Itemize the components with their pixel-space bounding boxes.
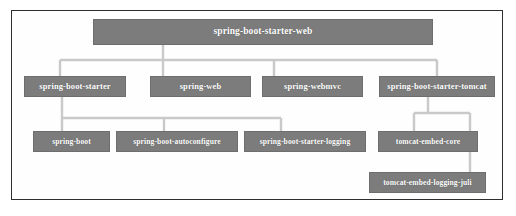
node-spring-boot-starter-tomcat: spring-boot-starter-tomcat <box>379 76 495 97</box>
node-spring-webmvc: spring-webmvc <box>262 76 363 97</box>
node-spring-boot-autoconfigure: spring-boot-autoconfigure <box>116 131 238 152</box>
node-spring-boot-starter: spring-boot-starter <box>24 76 126 97</box>
diagram-canvas: spring-boot-starter-web spring-boot-star… <box>0 0 516 216</box>
node-spring-boot: spring-boot <box>33 131 110 152</box>
node-tomcat-embed-logging-juli: tomcat-embed-logging-juli <box>369 172 486 193</box>
node-spring-web: spring-web <box>150 76 251 97</box>
node-tomcat-embed-core: tomcat-embed-core <box>378 131 478 152</box>
node-spring-boot-starter-web: spring-boot-starter-web <box>93 19 433 45</box>
node-spring-boot-starter-logging: spring-boot-starter-logging <box>244 131 366 152</box>
